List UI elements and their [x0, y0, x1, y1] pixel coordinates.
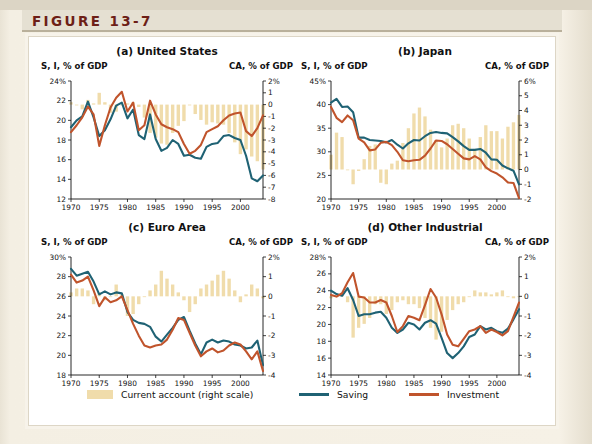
svg-text:1975: 1975	[349, 379, 368, 388]
figure-page: FIGURE 13-7 (a) United States S, I, % of…	[0, 0, 592, 444]
svg-text:-2: -2	[524, 195, 531, 204]
svg-text:1990: 1990	[175, 379, 194, 388]
svg-text:1995: 1995	[203, 203, 222, 212]
svg-text:1970: 1970	[62, 203, 81, 212]
svg-text:25: 25	[317, 171, 327, 180]
chart-panel-japan: (b) Japan S, I, % of GDP CA, % of GDP 20…	[301, 45, 549, 215]
svg-text:1980: 1980	[377, 203, 396, 212]
svg-text:1970: 1970	[322, 379, 341, 388]
saving-swatch-icon	[299, 393, 329, 396]
svg-text:2000: 2000	[231, 203, 250, 212]
svg-text:-1: -1	[524, 180, 532, 189]
y-axis-caption-right: CA, % of GDP	[229, 237, 293, 247]
svg-text:-2: -2	[524, 331, 531, 340]
legend-label: Saving	[337, 389, 368, 400]
panel-title: (b) Japan	[301, 45, 549, 57]
svg-text:18: 18	[57, 136, 67, 145]
svg-text:-1: -1	[268, 112, 276, 121]
svg-text:1990: 1990	[432, 379, 451, 388]
chart-panel-euro-area: (c) Euro Area S, I, % of GDP CA, % of GD…	[41, 221, 293, 391]
svg-text:16: 16	[317, 354, 327, 363]
svg-text:30%: 30%	[50, 253, 66, 262]
svg-text:26: 26	[317, 269, 327, 278]
legend-label: Investment	[447, 389, 499, 400]
y-axis-caption-left: S, I, % of GDP	[301, 237, 368, 247]
svg-text:1990: 1990	[432, 203, 451, 212]
svg-text:18: 18	[317, 337, 327, 346]
svg-text:-1: -1	[268, 312, 276, 321]
svg-text:28%: 28%	[310, 253, 326, 262]
svg-text:1975: 1975	[90, 203, 109, 212]
plot-area: 12141618202224%-8-7-6-5-4-3-2-1012%19701…	[41, 75, 293, 215]
svg-text:1: 1	[524, 272, 529, 281]
svg-text:28: 28	[57, 272, 67, 281]
svg-text:2%: 2%	[524, 253, 536, 262]
svg-text:-3: -3	[524, 351, 532, 360]
svg-text:3: 3	[524, 121, 529, 130]
svg-text:0: 0	[524, 292, 529, 301]
svg-text:1995: 1995	[460, 203, 479, 212]
svg-text:22: 22	[57, 331, 66, 340]
svg-text:1985: 1985	[146, 379, 165, 388]
svg-text:-6: -6	[268, 171, 276, 180]
svg-text:5: 5	[524, 91, 529, 100]
y-axis-caption-right: CA, % of GDP	[485, 61, 549, 71]
svg-text:4: 4	[524, 106, 529, 115]
svg-text:1985: 1985	[405, 203, 424, 212]
svg-text:0: 0	[524, 165, 529, 174]
svg-text:-3: -3	[268, 351, 276, 360]
svg-text:1980: 1980	[118, 203, 137, 212]
svg-text:2%: 2%	[268, 253, 280, 262]
svg-text:45%: 45%	[310, 77, 326, 86]
svg-text:2000: 2000	[487, 203, 506, 212]
plot-area: 202530354045%-2-10123456%197019751980198…	[301, 75, 549, 215]
svg-text:40: 40	[317, 100, 327, 109]
svg-text:-7: -7	[268, 183, 276, 192]
plot-area: 18202224262830%-4-3-2-1012%1970197519801…	[41, 251, 293, 391]
svg-text:1995: 1995	[460, 379, 479, 388]
legend-item-saving: Saving	[299, 389, 368, 400]
svg-text:2000: 2000	[231, 379, 250, 388]
svg-text:1985: 1985	[146, 203, 165, 212]
svg-text:24: 24	[317, 286, 327, 295]
svg-text:22: 22	[57, 96, 66, 105]
svg-text:-8: -8	[268, 195, 276, 204]
svg-text:1970: 1970	[322, 203, 341, 212]
y-axis-caption-right: CA, % of GDP	[229, 61, 293, 71]
svg-text:1980: 1980	[118, 379, 137, 388]
page-top-band	[0, 0, 592, 10]
svg-text:2%: 2%	[268, 77, 280, 86]
svg-text:2000: 2000	[487, 379, 506, 388]
svg-text:1995: 1995	[203, 379, 222, 388]
svg-text:2: 2	[524, 136, 529, 145]
svg-text:-4: -4	[268, 371, 276, 380]
svg-text:0: 0	[268, 100, 273, 109]
svg-text:-4: -4	[268, 147, 276, 156]
figure-card: (a) United States S, I, % of GDP CA, % o…	[28, 36, 556, 426]
svg-text:1990: 1990	[175, 203, 194, 212]
svg-text:1970: 1970	[62, 379, 81, 388]
plot-area: 1416182022242628%-4-3-2-1012%19701975198…	[301, 251, 549, 391]
svg-text:6%: 6%	[524, 77, 536, 86]
svg-text:-2: -2	[268, 331, 275, 340]
svg-text:1: 1	[268, 88, 273, 97]
legend-item-current-account: Current account (right scale)	[87, 389, 253, 400]
svg-text:22: 22	[317, 303, 326, 312]
svg-text:1985: 1985	[405, 379, 424, 388]
svg-text:0: 0	[268, 292, 273, 301]
legend-label: Current account (right scale)	[121, 389, 253, 400]
svg-text:-1: -1	[524, 312, 532, 321]
y-axis-caption-left: S, I, % of GDP	[301, 61, 368, 71]
current-account-swatch-icon	[87, 390, 113, 399]
svg-text:24: 24	[57, 312, 67, 321]
svg-text:24%: 24%	[50, 77, 66, 86]
legend-item-investment: Investment	[409, 389, 499, 400]
chart-panel-other-industrial: (d) Other Industrial S, I, % of GDP CA, …	[301, 221, 549, 391]
investment-swatch-icon	[409, 393, 439, 396]
panel-title: (d) Other Industrial	[301, 221, 549, 233]
svg-text:1: 1	[268, 272, 273, 281]
y-axis-caption-right: CA, % of GDP	[485, 237, 549, 247]
svg-text:-5: -5	[268, 159, 276, 168]
chart-panel-united-states: (a) United States S, I, % of GDP CA, % o…	[41, 45, 293, 215]
y-axis-caption-left: S, I, % of GDP	[41, 237, 108, 247]
